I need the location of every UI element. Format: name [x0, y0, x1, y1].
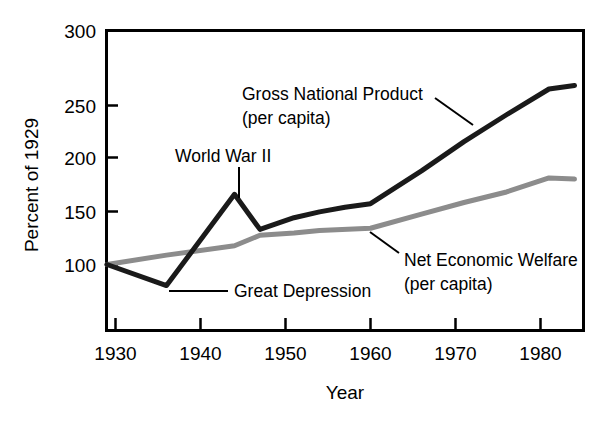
y-tick-label-250: 250 [64, 96, 96, 117]
y-axis-title: Percent of 1929 [21, 118, 42, 252]
annotation-world-war-ii: World War II [175, 146, 271, 166]
annotation-new-line1: Net Economic Welfare [404, 250, 578, 270]
x-tick-label-1970: 1970 [434, 343, 476, 364]
x-tick-label-1960: 1960 [349, 343, 391, 364]
x-tick-label-1980: 1980 [519, 343, 561, 364]
x-tick-label-1930: 1930 [94, 343, 136, 364]
y-tick-label-100: 100 [64, 255, 96, 276]
annotation-gnp-line2: (per capita) [242, 108, 331, 128]
chart-figure: 300 250 200 150 100 1930 1940 1950 1960 … [0, 0, 603, 421]
chart-canvas: 300 250 200 150 100 1930 1940 1950 1960 … [0, 0, 603, 421]
annotation-gnp-line1: Gross National Product [242, 84, 423, 104]
y-tick-label-200: 200 [64, 148, 96, 169]
x-tick-label-1940: 1940 [179, 343, 221, 364]
x-axis-title: Year [326, 382, 365, 403]
x-tick-label-1950: 1950 [264, 343, 306, 364]
y-tick-label-300: 300 [64, 21, 96, 42]
annotation-great-depression: Great Depression [234, 281, 371, 301]
annotation-new-line2: (per capita) [404, 274, 493, 294]
y-tick-label-150: 150 [64, 202, 96, 223]
